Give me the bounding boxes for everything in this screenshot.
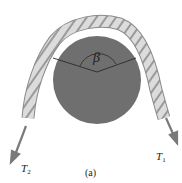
tension-label-left: T2 <box>21 162 31 176</box>
tension-arrow-left <box>11 126 26 162</box>
tension-subscript: 1 <box>162 156 166 164</box>
tension-label-right: T1 <box>156 150 166 164</box>
rope-over-cylinder-diagram <box>0 0 182 183</box>
tension-subscript: 2 <box>27 168 31 176</box>
tension-arrow-right <box>166 118 177 143</box>
figure-caption: (a) <box>85 167 96 178</box>
angle-label: β <box>93 50 100 66</box>
